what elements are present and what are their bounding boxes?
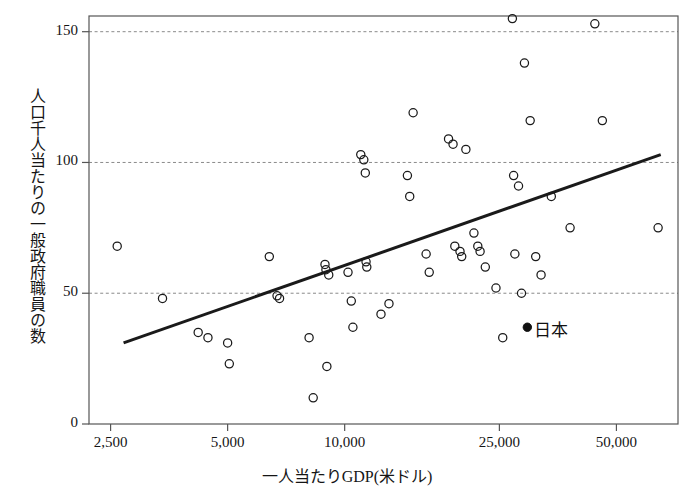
x-tick-label: 25,000 [459,434,539,451]
y-tick-label: 0 [32,414,78,431]
y-tick-label: 100 [32,152,78,169]
y-tick-label: 150 [32,22,78,39]
plot-frame [89,16,678,424]
plot-canvas [0,0,694,501]
highlight-point-japan [523,323,531,331]
grid-lines [89,32,678,294]
scatter-chart-figure: 人口千人当たりの一般政府職員の数 一人当たりGDP(米ドル) 日本 050100… [0,0,694,501]
x-tick-label: 50,000 [576,434,656,451]
axis-ticks [82,32,616,431]
trend-line [124,155,661,343]
data-points [113,15,662,402]
x-tick-label: 10,000 [305,434,385,451]
x-tick-label: 2,500 [71,434,151,451]
highlight-point-label: 日本 [534,316,568,341]
y-tick-label: 50 [32,283,78,300]
x-tick-label: 5,000 [188,434,268,451]
